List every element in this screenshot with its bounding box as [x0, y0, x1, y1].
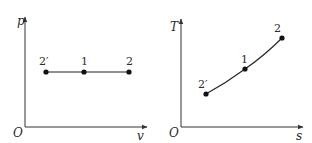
pv-point-2 [126, 69, 131, 74]
ts-x-axis-label: s [296, 129, 302, 143]
ts-origin-label: O [169, 126, 179, 140]
ts-diagram: T O s 2′ 1 2 [169, 19, 303, 143]
diagram-canvas: p O v 2′ 1 2 T O s 2′ 1 2 [0, 0, 312, 143]
ts-label-1: 1 [241, 53, 248, 66]
pv-y-axis-label: p [17, 14, 25, 28]
pv-label-1: 1 [81, 55, 88, 68]
pv-point-1 [81, 69, 86, 74]
pv-point-2prime [43, 69, 48, 74]
ts-y-axis-label: T [170, 20, 179, 34]
pv-label-2: 2 [126, 55, 133, 68]
ts-point-2 [279, 35, 284, 40]
ts-label-2: 2 [274, 22, 281, 35]
pv-label-2prime: 2′ [39, 55, 49, 68]
ts-point-1 [242, 66, 247, 71]
ts-point-2prime [203, 91, 208, 96]
ts-label-2prime: 2′ [198, 78, 208, 91]
pv-origin-label: O [13, 126, 23, 140]
ts-isobar-curve [206, 38, 282, 94]
pv-x-axis-label: v [137, 129, 144, 143]
pv-diagram: p O v 2′ 1 2 [13, 14, 147, 143]
